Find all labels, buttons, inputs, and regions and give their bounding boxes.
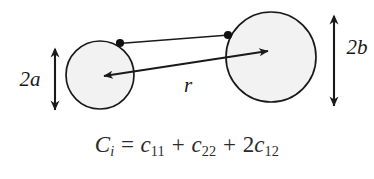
right-edge-dot [224,31,232,39]
small-circle [66,41,134,109]
figure-page: r 2a 2b Ci = c11 + c22 + 2c12 [0,0,374,179]
formula-term3-subscript: 12 [265,143,280,159]
formula-term1-subscript: 11 [151,143,165,159]
separation-label: r [184,73,193,97]
formula-plus-1: + [171,132,186,157]
left-dimension-label: 2a [20,67,41,91]
formula-plus-2: + [222,132,237,157]
edge-connector-line [119,35,229,44]
formula-equals: = [120,132,135,157]
formula-term3-symbol: c [254,132,264,157]
formula-lhs-subscript: i [110,143,114,159]
formula: Ci = c11 + c22 + 2c12 [0,132,374,160]
left-edge-dot [116,39,124,47]
formula-lhs-symbol: C [95,132,110,157]
right-dimension-label: 2b [347,35,368,59]
formula-term2-symbol: c [191,132,201,157]
formula-term1-symbol: c [141,132,151,157]
large-circle [226,12,316,102]
formula-term2-subscript: 22 [202,143,217,159]
formula-term3-coefficient: 2 [243,132,255,157]
